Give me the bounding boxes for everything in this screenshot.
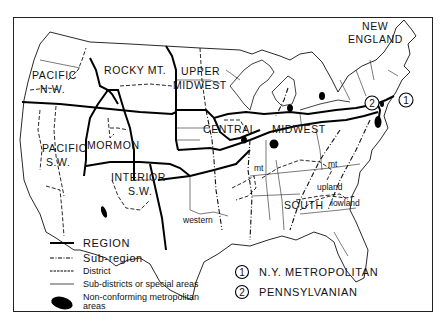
svg-text:District: District <box>83 266 111 276</box>
label-mormon: MORMON <box>87 139 140 151</box>
label-new-england-2: ENGLAND <box>348 33 403 45</box>
map-marker-2: 2 <box>365 96 379 110</box>
svg-text:N.Y. METROPOLITAN: N.Y. METROPOLITAN <box>259 266 378 278</box>
regions-map: PACIFIC N.W. PACIFIC S.W. ROCKY MT. MORM… <box>0 0 446 325</box>
label-upper-midwest-1: UPPER <box>181 65 220 77</box>
label-rocky-mt: ROCKY MT. <box>104 64 166 76</box>
label-midwest: MIDWEST <box>272 123 326 135</box>
subregion-boundaries <box>206 88 370 240</box>
svg-text:2: 2 <box>239 287 245 298</box>
label-pacific-nw-1: PACIFIC <box>32 69 77 81</box>
label-pacific-nw-2: N.W. <box>40 83 65 95</box>
label-interior-sw-1: INTERIOR <box>111 171 166 183</box>
label-pacific-sw-1: PACIFIC <box>42 142 87 154</box>
label-south: SOUTH <box>284 199 324 211</box>
label-central: CENTRAL <box>203 123 256 135</box>
label-pacific-sw-2: S.W. <box>46 156 71 168</box>
label-upper-midwest-2: MIDWEST <box>173 79 227 91</box>
label-lowland: lowland <box>331 198 360 208</box>
legend-item-subregion: Sub-region <box>50 252 143 264</box>
label-western: western <box>182 215 213 225</box>
legend-ny-metropolitan: 1 N.Y. METROPOLITAN <box>236 266 379 279</box>
svg-text:Sub-districts or special areas: Sub-districts or special areas <box>83 279 199 289</box>
label-mt-west: mt <box>254 163 264 173</box>
svg-text:REGION: REGION <box>83 237 130 249</box>
legend-item-region: REGION <box>50 237 130 249</box>
legend-item-district: District <box>50 266 111 276</box>
svg-text:1: 1 <box>239 267 245 278</box>
legend-item-subdistrict: Sub-districts or special areas <box>50 279 199 289</box>
us-outline <box>20 20 416 300</box>
subregion-labels: western mt mt upland lowland <box>182 159 360 225</box>
svg-text:PENNSYLVANIAN: PENNSYLVANIAN <box>259 286 357 298</box>
svg-text:2: 2 <box>369 98 375 109</box>
svg-text:Sub-region: Sub-region <box>83 252 143 264</box>
legend-pennsylvanian: 2 PENNSYLVANIAN <box>236 286 358 299</box>
label-upland: upland <box>317 182 343 192</box>
legend: REGION Sub-region District Sub-districts… <box>50 237 199 312</box>
map-marker-1: 1 <box>399 93 413 107</box>
label-new-england-1: NEW <box>362 20 388 32</box>
legend-item-metro: Non-conforming metropolitan areas <box>50 292 199 312</box>
label-interior-sw-2: S.W. <box>128 185 153 197</box>
label-mt-east: mt <box>328 159 338 169</box>
svg-text:areas: areas <box>83 301 106 311</box>
svg-text:1: 1 <box>403 95 409 106</box>
